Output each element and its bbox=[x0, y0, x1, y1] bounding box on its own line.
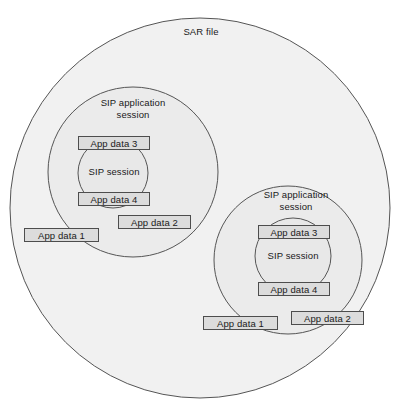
left-sip-application-session-label: SIP application session bbox=[78, 97, 188, 121]
left-app-data-3-box: App data 3 bbox=[78, 136, 150, 150]
sar-file-label: SAR file bbox=[146, 26, 256, 38]
right-app-data-4-label: App data 4 bbox=[259, 283, 329, 296]
right-app-data-1-box: App data 1 bbox=[203, 316, 278, 330]
left-app-data-2-box: App data 2 bbox=[118, 215, 191, 229]
right-app-data-3-box: App data 3 bbox=[258, 225, 330, 239]
left-app-data-2-label: App data 2 bbox=[119, 216, 190, 229]
right-app-data-2-label: App data 2 bbox=[292, 312, 363, 325]
right-sip-session-label: SIP session bbox=[257, 250, 329, 262]
diagram-canvas: SAR file SIP application session SIP ses… bbox=[0, 0, 409, 416]
left-app-data-1-box: App data 1 bbox=[24, 228, 99, 242]
left-sip-session-label: SIP session bbox=[78, 166, 150, 178]
right-app-data-4-box: App data 4 bbox=[258, 282, 330, 296]
right-sip-application-session-label: SIP application session bbox=[242, 189, 350, 213]
left-app-data-4-label: App data 4 bbox=[79, 193, 149, 206]
left-app-data-1-label: App data 1 bbox=[25, 229, 98, 242]
right-app-data-2-box: App data 2 bbox=[291, 311, 364, 325]
right-app-data-3-label: App data 3 bbox=[259, 226, 329, 239]
left-app-data-3-label: App data 3 bbox=[79, 137, 149, 150]
right-app-data-1-label: App data 1 bbox=[204, 317, 277, 330]
left-app-data-4-box: App data 4 bbox=[78, 192, 150, 206]
